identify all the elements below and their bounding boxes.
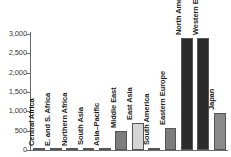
bar-group: Western Europe bbox=[195, 0, 211, 150]
y-axis-tick-labels: 05001,0001,5002,0002,5003,000 bbox=[0, 0, 30, 157]
y-tick-mark bbox=[26, 34, 30, 35]
y-tick-mark bbox=[26, 111, 30, 112]
bar-category-label: North America bbox=[175, 0, 183, 35]
y-tick-label: 1,000 bbox=[9, 107, 27, 115]
y-tick-label: 2,000 bbox=[9, 69, 27, 77]
bar-category-label: Middle East bbox=[110, 87, 118, 128]
plot-area: Central AfricaE. and S. AfricaNorthern A… bbox=[31, 0, 228, 150]
bar bbox=[83, 148, 95, 150]
bar-category-label: East Asia bbox=[126, 87, 134, 120]
bar bbox=[50, 148, 62, 150]
bar-wrapper: Middle East bbox=[115, 0, 127, 150]
y-tick-mark bbox=[26, 53, 30, 54]
bar bbox=[181, 38, 193, 150]
bar-category-label: Western Europe bbox=[192, 0, 200, 35]
bar-category-label: South Asia bbox=[77, 107, 85, 145]
bar-group: Middle East bbox=[113, 0, 129, 150]
bar bbox=[148, 148, 160, 150]
bar-wrapper: Japan bbox=[214, 0, 226, 150]
bar-wrapper: Western Europe bbox=[197, 0, 209, 150]
bar-category-label: Northern Africa bbox=[61, 92, 69, 145]
y-tick-label: 2,500 bbox=[9, 49, 27, 57]
bar bbox=[33, 148, 45, 150]
bar-category-label: Eastern Europe bbox=[159, 71, 167, 125]
bar-category-label: South America bbox=[143, 93, 151, 144]
bar bbox=[165, 128, 177, 150]
bar-category-label: Japan bbox=[208, 89, 216, 110]
y-tick-label: 3,000 bbox=[9, 30, 27, 38]
bar-category-label: Asia–Pacific bbox=[93, 103, 101, 146]
x-axis-line bbox=[30, 150, 228, 151]
y-tick-mark bbox=[26, 150, 30, 151]
bar bbox=[214, 113, 226, 150]
bar bbox=[66, 148, 78, 150]
bar bbox=[115, 131, 127, 150]
bar-group: Japan bbox=[212, 0, 228, 150]
bar-category-label: E. and S. Africa bbox=[44, 92, 52, 145]
y-tick-label: 1,500 bbox=[9, 88, 27, 96]
y-tick-mark bbox=[26, 131, 30, 132]
bar-category-label: Central Africa bbox=[28, 98, 36, 146]
y-tick-mark bbox=[26, 73, 30, 74]
bar-chart: 05001,0001,5002,0002,5003,000 Central Af… bbox=[0, 0, 231, 157]
bar bbox=[99, 148, 111, 150]
y-tick-mark bbox=[26, 92, 30, 93]
